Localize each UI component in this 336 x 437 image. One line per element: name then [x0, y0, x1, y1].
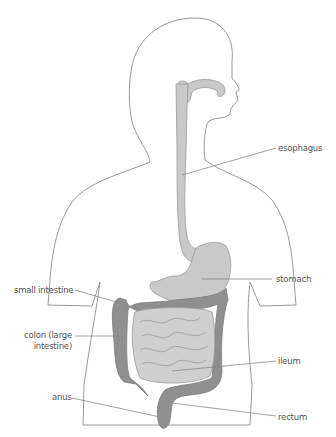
small-intestine-shape [132, 308, 215, 384]
label-colon-line1: colon (large [22, 330, 72, 340]
label-anus: anus [52, 392, 72, 402]
label-rectum: rectum [278, 412, 307, 422]
label-small-intestine: small intestine [14, 285, 73, 295]
diagram-canvas [0, 0, 336, 437]
label-ileum: ileum [278, 356, 301, 366]
label-stomach: stomach [276, 274, 311, 284]
label-esophagus: esophagus [278, 143, 322, 153]
label-colon-line2: intestine) [22, 341, 72, 351]
